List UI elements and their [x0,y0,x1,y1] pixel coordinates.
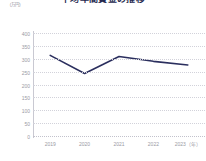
x-axis-tick-label-2019: 2019 [45,142,56,147]
y-axis-tick-label: 150 [22,96,30,101]
y-axis-tick-label: 200 [22,83,30,88]
y-axis-tick-label: 300 [22,57,30,62]
gridline-y-250: 250 [33,72,205,73]
y-axis-tick-label: 0 [27,135,30,140]
y-axis-tick-label: 100 [22,109,30,114]
x-axis-tick-label-2020: 2020 [79,142,90,147]
chart-title: 平均年間賃金の推移 [61,0,145,3]
gridline-y-400: 400 [33,33,205,34]
y-axis-tick-label: 250 [22,70,30,75]
chart-title-strip: 平均年間賃金の推移 [0,0,206,3]
gridline-y-100: 100 [33,110,205,111]
gridline-y-200: 200 [33,85,205,86]
gridline-y-50: 50 [33,123,205,124]
gridline-y-150: 150 [33,97,205,98]
gridline-y-0: 0 [33,136,205,137]
y-axis-tick-label: 50 [24,122,30,127]
gridline-y-300: 300 [33,59,205,60]
x-axis-tick-label-2022: 2022 [148,142,159,147]
x-axis-tick-label-2021: 2021 [113,142,124,147]
gridline-y-350: 350 [33,46,205,47]
line-chart: 平均年間賃金の推移 （万円） 4003503002502001501005002… [0,0,206,161]
plot-area: 4003503002502001501005002019202020212022… [33,33,205,136]
y-axis-tick-label: 350 [22,44,30,49]
y-axis-tick-label: 400 [22,32,30,37]
x-axis-tick-label-2023: 2023（年） [175,142,201,147]
y-axis-unit-label: （万円） [7,1,23,7]
